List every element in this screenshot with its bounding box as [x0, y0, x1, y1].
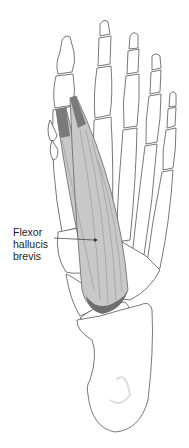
second-toe-middle — [98, 36, 111, 66]
calcaneus — [77, 303, 153, 432]
second-toe-distal — [100, 20, 110, 36]
fourth-toe-proximal — [146, 94, 161, 144]
fifth-toe-distal — [169, 92, 176, 107]
third-toe-proximal — [123, 74, 139, 128]
hallux-distal-phalanx — [57, 36, 75, 74]
label-line-3: brevis — [13, 250, 48, 262]
foot-anatomy-illustration: Flexor hallucis brevis — [0, 0, 189, 448]
foot-skeleton-drawing — [0, 0, 189, 448]
second-toe-proximal — [94, 66, 111, 118]
third-toe-middle — [127, 49, 139, 74]
fifth-toe-middle — [167, 107, 176, 128]
label-line-2: hallucis — [13, 238, 48, 250]
label-line-1: Flexor — [13, 226, 48, 238]
fifth-toe-proximal — [163, 128, 176, 170]
muscle-label: Flexor hallucis brevis — [13, 226, 48, 262]
fourth-toe-middle — [150, 70, 161, 94]
fourth-toe-distal — [152, 54, 161, 70]
third-toe-distal — [129, 33, 138, 49]
